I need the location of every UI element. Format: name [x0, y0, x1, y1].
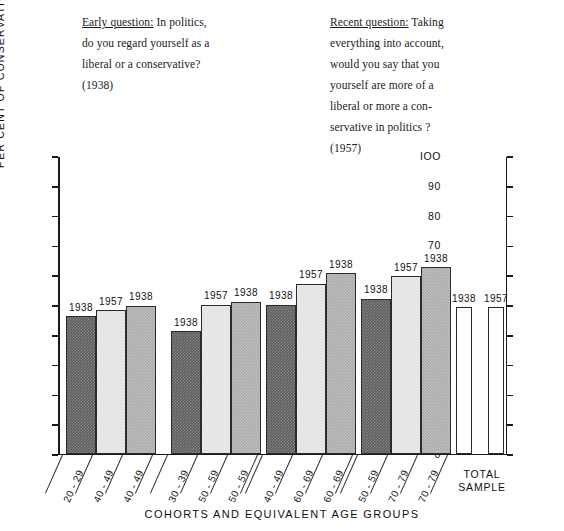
bar-year-label-g0-2: 1938: [120, 291, 162, 302]
x-category-label-g1-1: 50 - 59: [196, 468, 221, 504]
y-tick-left-50: [52, 305, 58, 307]
bar-year-label-total-1: 1957: [478, 293, 514, 304]
x-axis-title: COHORTS AND EQUIVALENT AGE GROUPS: [0, 508, 564, 520]
early-question-line-3: (1938): [82, 75, 297, 96]
early-question-text-0: In politics,: [156, 16, 206, 28]
y-tick-left-70: [52, 246, 58, 248]
bar-g2-0: [266, 305, 296, 454]
x-category-label-g3-1: 70 - 79: [386, 468, 411, 504]
recent-question-annotation: Recent question: Taking everything into …: [330, 12, 545, 159]
y-tick-left-90: [52, 186, 58, 188]
bar-year-label-total-0: 1938: [446, 293, 482, 304]
recent-question-line-3: yourself are more of a: [330, 75, 545, 96]
bar-g3-1: [391, 276, 421, 453]
y-tick-right-80: [507, 216, 513, 218]
total-sample-line-2: SAMPLE: [444, 481, 520, 494]
early-question-line-1: do you regard yourself as a: [82, 33, 297, 54]
recent-question-line-5: servative in politics ?: [330, 117, 545, 138]
recent-question-label: Recent question:: [330, 16, 409, 28]
y-tick-right-10: [507, 424, 513, 426]
x-category-label-g2-0: 40 - 49: [261, 468, 286, 504]
y-ticklabel-left-100: IOO: [415, 150, 441, 162]
recent-question-text-0: Taking: [411, 16, 443, 28]
y-tick-left-100: [52, 156, 58, 158]
early-question-label: Early question:: [82, 16, 153, 28]
early-question-line-0: Early question: In politics,: [82, 12, 297, 33]
early-question-annotation: Early question: In politics, do you rega…: [82, 12, 297, 96]
y-tick-right-100: [507, 156, 513, 158]
y-ticklabel-left-90: 90: [415, 180, 441, 192]
bar-g2-2: [326, 273, 356, 453]
y-tick-right-0: [507, 454, 513, 456]
y-tick-left-10: [52, 424, 58, 426]
y-tick-left-60: [52, 275, 58, 277]
early-question-line-2: liberal or a conservative?: [82, 54, 297, 75]
bar-year-label-g2-2: 1938: [320, 259, 362, 270]
plot-area: 00IOIO20203030404050506060707080809090IO…: [58, 157, 507, 455]
bar-year-label-g3-2: 1938: [415, 253, 457, 264]
y-tick-right-40: [507, 335, 513, 337]
bar-g3-0: [361, 299, 391, 454]
x-category-label-g0-1: 40 - 49: [91, 468, 116, 504]
bar-g1-0: [171, 331, 201, 453]
y-tick-left-80: [52, 216, 58, 218]
x-category-label-g2-1: 60 - 69: [291, 468, 316, 504]
x-separator-g1-0: [150, 455, 168, 494]
recent-question-line-4: liberal or more a con-: [330, 96, 545, 117]
y-tick-right-50: [507, 305, 513, 307]
bar-g1-1: [201, 305, 231, 454]
y-tick-right-70: [507, 246, 513, 248]
bar-total-0: [456, 307, 472, 453]
bar-g0-0: [66, 316, 96, 453]
recent-question-line-1: everything into account,: [330, 33, 545, 54]
bar-g1-2: [231, 302, 261, 454]
y-tick-left-30: [52, 365, 58, 367]
x-category-label-g0-2: 40 - 49: [121, 468, 146, 504]
recent-question-line-2: would you say that you: [330, 54, 545, 75]
x-category-label-g3-2: 70 - 79: [416, 468, 441, 504]
total-sample-label: TOTAL SAMPLE: [444, 468, 520, 494]
bar-g2-1: [296, 284, 326, 454]
total-sample-line-1: TOTAL: [444, 468, 520, 481]
y-ticklabel-left-80: 80: [415, 210, 441, 222]
x-category-label-g1-0: 30 - 39: [166, 468, 191, 504]
x-separator-g0-0: [45, 455, 63, 494]
bar-total-1: [488, 307, 504, 453]
y-tick-left-40: [52, 335, 58, 337]
x-category-label-g0-0: 20 - 29: [61, 468, 86, 504]
bar-g0-2: [126, 306, 156, 454]
y-tick-right-60: [507, 275, 513, 277]
y-tick-left-20: [52, 395, 58, 397]
y-tick-right-20: [507, 395, 513, 397]
y-axis-title: PER CENT OF CONSERVATIVE OPINION: [0, 0, 6, 168]
y-tick-right-30: [507, 365, 513, 367]
recent-question-line-0: Recent question: Taking: [330, 12, 545, 33]
bar-g0-1: [96, 310, 126, 453]
x-category-label-g3-0: 50 - 59: [356, 468, 381, 504]
y-tick-right-90: [507, 186, 513, 188]
y-tick-left-0: [52, 454, 58, 456]
y-ticklabel-left-70: 70: [415, 239, 441, 251]
